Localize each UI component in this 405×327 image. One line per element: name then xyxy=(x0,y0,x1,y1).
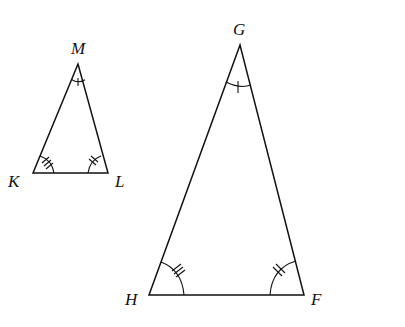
vertex-label-k: K xyxy=(7,172,21,191)
angle-f-arc xyxy=(270,261,296,295)
angle-h-arc xyxy=(161,262,184,295)
vertex-label-g: G xyxy=(233,20,245,39)
vertex-label-m: M xyxy=(70,39,86,58)
similar-triangles-diagram: M K L G H F xyxy=(0,0,405,327)
vertex-label-f: F xyxy=(310,290,322,309)
triangle-klm-edges xyxy=(33,64,108,173)
triangle-ghf: G H F xyxy=(124,20,322,309)
vertex-label-l: L xyxy=(114,172,124,191)
triangle-klm: M K L xyxy=(7,39,124,191)
vertex-label-h: H xyxy=(124,290,139,309)
